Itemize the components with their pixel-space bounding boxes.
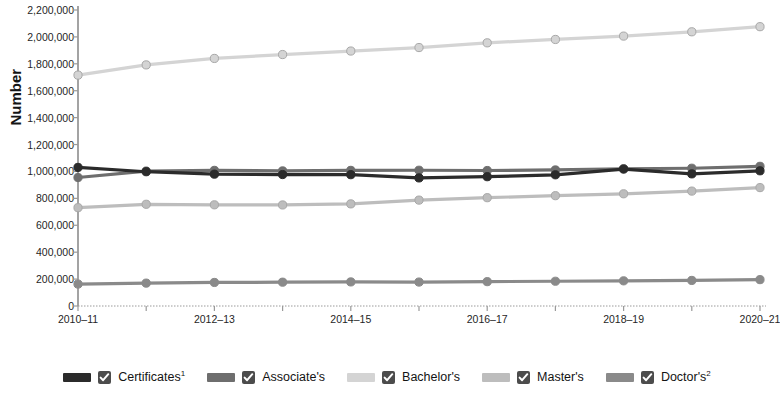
legend-footnote-marker: 2 — [706, 369, 710, 378]
legend-item-certificates[interactable]: Certificates1 — [63, 370, 185, 384]
data-point — [415, 166, 423, 174]
data-point — [620, 190, 628, 198]
legend-item-bachelor-s[interactable]: Bachelor's — [347, 370, 460, 384]
checked-checkbox-icon[interactable] — [517, 371, 530, 384]
data-point — [415, 278, 423, 286]
data-point — [688, 170, 696, 178]
checked-checkbox-icon[interactable] — [641, 371, 654, 384]
legend-item-label: Certificates1 — [118, 370, 185, 384]
legend-footnote-marker: 1 — [181, 369, 185, 378]
data-point — [279, 170, 287, 178]
data-point — [347, 200, 355, 208]
legend-color-swatch — [347, 373, 375, 382]
legend-item-label: Master's — [537, 370, 584, 384]
data-point — [210, 54, 218, 62]
legend-color-swatch — [482, 373, 510, 382]
data-point — [347, 47, 355, 55]
data-point — [483, 194, 491, 202]
data-point — [74, 204, 82, 212]
data-point — [756, 184, 764, 192]
data-point — [210, 201, 218, 209]
data-point — [142, 168, 150, 176]
data-point — [415, 174, 423, 182]
legend-item-master-s[interactable]: Master's — [482, 370, 584, 384]
checked-checkbox-icon[interactable] — [242, 371, 255, 384]
legend-item-associate-s[interactable]: Associate's — [207, 370, 325, 384]
data-point — [74, 280, 82, 288]
data-point — [142, 61, 150, 69]
data-point — [74, 163, 82, 171]
data-point — [210, 170, 218, 178]
legend-item-label: Bachelor's — [402, 370, 460, 384]
legend-color-swatch — [63, 373, 91, 382]
checked-checkbox-icon[interactable] — [98, 371, 111, 384]
data-point — [620, 32, 628, 40]
legend-color-swatch — [207, 373, 235, 382]
data-point — [688, 276, 696, 284]
data-point — [551, 35, 559, 43]
checked-checkbox-icon[interactable] — [382, 371, 395, 384]
data-point — [279, 201, 287, 209]
data-point — [74, 173, 82, 181]
data-point — [483, 39, 491, 47]
data-point — [756, 276, 764, 284]
data-point — [210, 278, 218, 286]
data-point — [688, 28, 696, 36]
data-point — [620, 277, 628, 285]
data-point — [415, 196, 423, 204]
data-point — [415, 43, 423, 51]
plot-area: Number 0200,000400,000600,000800,0001,00… — [0, 0, 774, 350]
data-point — [756, 23, 764, 31]
series-bachelor-s — [74, 23, 764, 80]
data-point — [483, 278, 491, 286]
data-point — [551, 277, 559, 285]
series-master-s — [74, 184, 764, 212]
data-point — [551, 171, 559, 179]
data-point — [483, 173, 491, 181]
legend-item-label: Associate's — [262, 370, 325, 384]
data-point — [347, 171, 355, 179]
legend-item-doctor-s[interactable]: Doctor's2 — [606, 370, 711, 384]
data-point — [74, 71, 82, 79]
data-point — [756, 167, 764, 175]
data-point — [279, 278, 287, 286]
series-plot — [0, 0, 774, 350]
data-point — [347, 278, 355, 286]
data-point — [142, 279, 150, 287]
data-point — [551, 192, 559, 200]
data-point — [688, 187, 696, 195]
legend-item-label: Doctor's2 — [661, 370, 711, 384]
legend-color-swatch — [606, 373, 634, 382]
chart-legend: Certificates1Associate'sBachelor'sMaster… — [0, 350, 774, 404]
data-point — [279, 50, 287, 58]
data-point — [142, 200, 150, 208]
data-point — [620, 165, 628, 173]
series-doctor-s — [74, 276, 764, 289]
